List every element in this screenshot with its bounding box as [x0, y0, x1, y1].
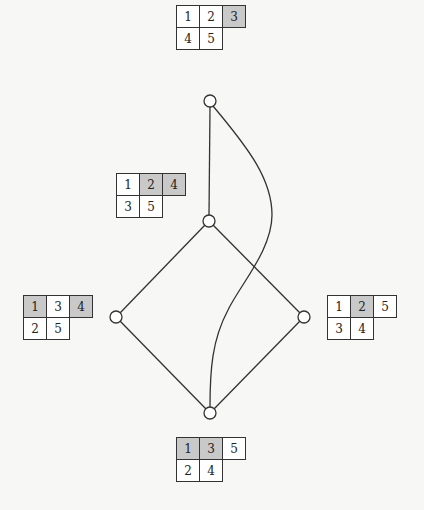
- tableau-empty: [222, 27, 246, 50]
- tableau-cell: 2: [199, 5, 223, 28]
- tableau-cell: 5: [46, 317, 70, 340]
- tableau-cell: 4: [176, 27, 200, 50]
- node-top[interactable]: [204, 95, 216, 107]
- tableau-cell: 3: [46, 295, 70, 318]
- edge-top-middle: [209, 107, 210, 215]
- tableau-cell: 3: [116, 195, 140, 218]
- tableau-empty: [162, 195, 186, 218]
- tableau-cell-shaded: 1: [23, 295, 47, 318]
- tableau-cell-shaded: 4: [162, 173, 186, 196]
- tableau-cell: 5: [139, 195, 163, 218]
- tableau-cell-shaded: 4: [69, 295, 93, 318]
- tableau-empty: [373, 317, 397, 340]
- tableau-right: 1 2 5 3 4: [327, 295, 396, 339]
- hasse-graph: [0, 0, 424, 510]
- tableau-cell: 4: [350, 317, 374, 340]
- edge-right-bottom: [214, 321, 300, 409]
- node-bottom[interactable]: [204, 407, 216, 419]
- tableau-top: 1 2 3 4 5: [176, 5, 245, 49]
- tableau-empty: [222, 459, 246, 482]
- tableau-cell: 1: [116, 173, 140, 196]
- tableau-cell: 5: [222, 437, 246, 460]
- tableau-cell-shaded: 3: [222, 5, 246, 28]
- tableau-cell-shaded: 2: [350, 295, 374, 318]
- tableau-cell: 2: [23, 317, 47, 340]
- edge-middle-left: [120, 225, 205, 313]
- tableau-middle: 1 2 4 3 5: [116, 173, 185, 217]
- tableau-cell: 4: [199, 459, 223, 482]
- node-middle[interactable]: [203, 215, 215, 227]
- edge-left-bottom: [120, 321, 206, 409]
- node-right[interactable]: [298, 311, 310, 323]
- tableau-cell: 5: [199, 27, 223, 50]
- edge-middle-right: [213, 225, 300, 313]
- tableau-cell: 1: [327, 295, 351, 318]
- tableau-cell: 2: [176, 459, 200, 482]
- node-left[interactable]: [110, 311, 122, 323]
- tableau-cell-shaded: 1: [176, 437, 200, 460]
- tableau-bottom: 1 3 5 2 4: [176, 437, 245, 481]
- tableau-cell: 3: [327, 317, 351, 340]
- tableau-cell: 5: [373, 295, 397, 318]
- edge-top-bottom-curve: [210, 106, 272, 407]
- tableau-left: 1 3 4 2 5: [23, 295, 92, 339]
- tableau-cell-shaded: 2: [139, 173, 163, 196]
- tableau-cell: 1: [176, 5, 200, 28]
- tableau-cell-shaded: 3: [199, 437, 223, 460]
- tableau-empty: [69, 317, 93, 340]
